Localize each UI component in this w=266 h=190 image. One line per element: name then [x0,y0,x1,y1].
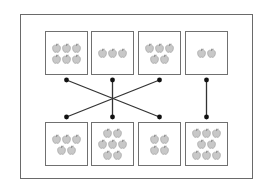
apple-icon [150,54,159,64]
apple-icon [98,139,107,149]
apple-icon [67,145,76,155]
apple-row [150,54,169,64]
apple-icon [103,128,112,138]
apple-icon [108,139,117,149]
apple-icon [52,43,61,53]
apple-row [103,150,122,160]
bottom-box-4 [185,122,228,166]
apple-icon [155,43,164,53]
apple-icon [207,139,216,149]
apple-row [98,139,127,149]
apple-icon [192,150,201,160]
apple-icon [192,128,201,138]
apple-icon [150,145,159,155]
apple-icon [212,150,221,160]
apple-icon [103,150,112,160]
apple-icon [72,54,81,64]
apple-icon [113,128,122,138]
apple-icon [98,48,107,58]
apple-icon [207,48,216,58]
top-box-1 [45,31,88,75]
apple-row [52,54,81,64]
apple-row [98,48,127,58]
apple-icon [145,43,154,53]
apple-icon [52,134,61,144]
apple-icon [160,145,169,155]
apple-icon [72,134,81,144]
apple-icon [113,150,122,160]
apple-icon [57,145,66,155]
apple-icon [52,54,61,64]
apple-icon [150,134,159,144]
apple-icon [160,54,169,64]
apple-icon [197,48,206,58]
apple-row [145,43,174,53]
bottom-box-2 [91,122,134,166]
apple-row [57,145,76,155]
apple-icon [62,54,71,64]
apple-row [103,128,122,138]
apple-row [197,48,216,58]
apple-row [192,128,221,138]
top-box-3 [138,31,181,75]
apple-icon [165,43,174,53]
apple-icon [62,134,71,144]
top-box-4 [185,31,228,75]
apple-row [197,139,216,149]
apple-icon [202,128,211,138]
apple-row [150,134,169,144]
apple-icon [118,48,127,58]
apple-icon [62,43,71,53]
top-box-2 [91,31,134,75]
apple-row [192,150,221,160]
bottom-box-3 [138,122,181,166]
apple-icon [212,128,221,138]
bottom-box-1 [45,122,88,166]
apple-icon [160,134,169,144]
apple-icon [197,139,206,149]
apple-icon [202,150,211,160]
apple-icon [72,43,81,53]
apple-row [52,43,81,53]
apple-row [150,145,169,155]
apple-row [52,134,81,144]
apple-icon [118,139,127,149]
apple-icon [108,48,117,58]
